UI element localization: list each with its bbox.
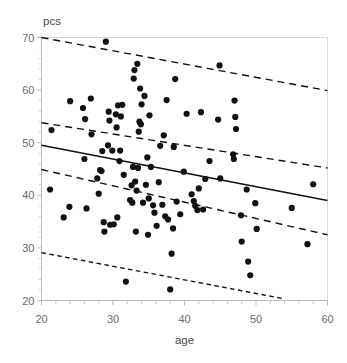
data-point [289, 205, 295, 211]
data-point [161, 132, 167, 138]
data-point [159, 202, 165, 208]
data-point [117, 147, 123, 153]
y-axis-label: pcs [43, 15, 61, 27]
data-point [135, 165, 141, 171]
data-point [181, 169, 187, 175]
data-point [66, 204, 72, 210]
data-point [206, 158, 212, 164]
data-points [47, 39, 316, 293]
data-point [47, 186, 53, 192]
y-axis-tick-labels: 203040506070 [22, 32, 34, 307]
data-point [99, 148, 105, 154]
data-point [133, 187, 139, 193]
data-point [233, 126, 239, 132]
data-point [217, 175, 223, 181]
y-tick-label-60: 60 [22, 84, 34, 96]
x-axis-ticks [42, 301, 328, 306]
data-point [116, 158, 122, 164]
data-point [101, 219, 107, 225]
data-point [136, 129, 142, 135]
data-point [174, 199, 180, 205]
data-point [196, 185, 202, 191]
data-point [170, 225, 176, 231]
data-point [146, 112, 152, 118]
data-point [184, 111, 190, 117]
data-point [215, 116, 221, 122]
data-point [88, 95, 94, 101]
data-point [150, 202, 156, 208]
data-point [80, 105, 86, 111]
data-point [239, 238, 245, 244]
data-point [121, 172, 127, 178]
data-point [202, 176, 208, 182]
data-point [245, 258, 251, 264]
data-point [123, 278, 129, 284]
data-point [231, 98, 237, 104]
data-point [198, 109, 204, 115]
data-point [194, 207, 200, 213]
y-axis-ticks [38, 38, 42, 301]
data-point [106, 109, 112, 115]
data-point [247, 272, 253, 278]
x-tick-label-60: 60 [321, 313, 333, 325]
x-tick-label-20: 20 [35, 313, 47, 325]
data-point [96, 191, 102, 197]
data-point [171, 144, 177, 150]
data-point [164, 97, 170, 103]
data-point [118, 113, 124, 119]
data-point [151, 210, 157, 216]
data-point [154, 223, 160, 229]
y-tick-label-40: 40 [22, 189, 34, 201]
data-point [165, 216, 171, 222]
data-point [310, 181, 316, 187]
data-point [114, 214, 120, 220]
data-point [129, 200, 135, 206]
y-tick-label-20: 20 [22, 295, 34, 307]
data-point [105, 142, 111, 148]
data-point [146, 195, 152, 201]
data-point [111, 221, 117, 227]
data-point [172, 76, 178, 82]
data-point [216, 62, 222, 68]
data-point [169, 251, 175, 257]
data-point [134, 61, 140, 67]
data-point [81, 156, 87, 162]
data-point [254, 226, 260, 232]
y-tick-label-70: 70 [22, 32, 34, 44]
data-point [200, 206, 206, 212]
data-point [137, 85, 143, 91]
data-point [82, 116, 88, 122]
data-point [244, 186, 250, 192]
data-point [141, 93, 147, 99]
data-point [106, 118, 112, 124]
plot-canvas: 203040506070 2030405060 pcs age [0, 0, 347, 363]
x-tick-label-30: 30 [107, 313, 119, 325]
data-point [143, 182, 149, 188]
x-tick-label-50: 50 [250, 313, 262, 325]
y-tick-label-50: 50 [22, 137, 34, 149]
data-point [167, 286, 173, 292]
data-point [94, 175, 100, 181]
data-point [119, 102, 125, 108]
data-point [83, 205, 89, 211]
data-point [231, 156, 237, 162]
confidence-bands [42, 38, 328, 299]
data-point [138, 121, 144, 127]
data-point [304, 241, 310, 247]
data-point [113, 124, 119, 130]
y-tick-label-30: 30 [22, 242, 34, 254]
data-point [189, 191, 195, 197]
upper-prediction-band [42, 38, 328, 91]
data-point [238, 212, 244, 218]
data-point [252, 200, 258, 206]
data-point [157, 143, 163, 149]
x-axis-label: age [175, 334, 194, 346]
data-point [148, 164, 154, 170]
data-point [98, 168, 104, 174]
data-point [144, 154, 150, 160]
data-point [88, 131, 94, 137]
data-point [133, 228, 139, 234]
data-point [61, 214, 67, 220]
lower-confidence-band [42, 170, 328, 235]
x-tick-label-40: 40 [178, 313, 190, 325]
